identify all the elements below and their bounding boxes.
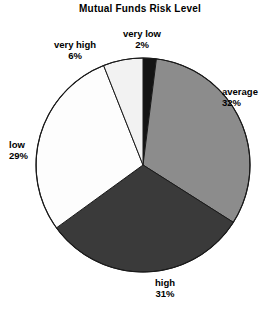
slice-label-very-low-name: very low: [113, 28, 171, 39]
slice-label-low-name: low: [9, 139, 49, 150]
pie-slice-group: [36, 58, 250, 272]
slice-label-average-percent: 32%: [222, 97, 278, 108]
slice-label-high-name: high: [140, 277, 190, 288]
slice-label-very-high-name: very high: [44, 39, 106, 50]
slice-label-low-percent: 29%: [9, 150, 49, 161]
slice-label-low: low 29%: [9, 139, 49, 161]
pie-chart-figure: Mutual Funds Risk Level very high 6% ver…: [0, 0, 280, 319]
slice-label-very-high: very high 6%: [44, 39, 106, 61]
slice-label-very-low-percent: 2%: [113, 39, 171, 50]
slice-label-average-name: average: [222, 86, 278, 97]
slice-label-high: high 31%: [140, 277, 190, 299]
slice-label-very-low: very low 2%: [113, 28, 171, 50]
slice-label-average: average 32%: [222, 86, 278, 108]
slice-label-high-percent: 31%: [140, 288, 190, 299]
slice-label-very-high-percent: 6%: [44, 50, 106, 61]
